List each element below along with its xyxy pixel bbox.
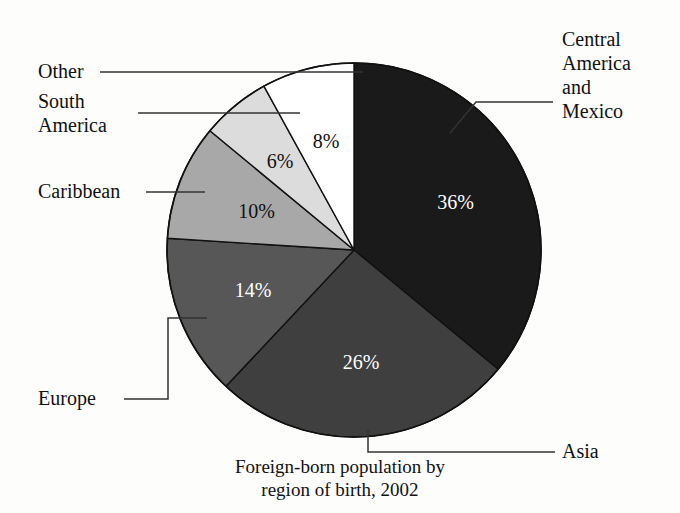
label-caribbean: Caribbean — [38, 180, 120, 204]
chart-caption: Foreign-born population by region of bir… — [0, 455, 680, 501]
leader-line-asia — [368, 430, 555, 452]
pie-chart-figure: 36%26%14%10%6%8% Other South America Car… — [0, 0, 680, 513]
caption-line-2: region of birth, 2002 — [0, 478, 680, 501]
label-central-america-line1: Central — [562, 28, 621, 52]
label-south-america-line1: South — [38, 90, 85, 114]
label-europe: Europe — [38, 387, 96, 411]
caption-line-1: Foreign-born population by — [0, 455, 680, 478]
pie-slices-group — [167, 63, 541, 437]
label-other: Other — [38, 60, 84, 84]
label-central-america-line3: and — [562, 76, 591, 100]
label-central-america-line4: Mexico — [562, 100, 623, 124]
label-south-america-line2: America — [38, 114, 107, 138]
label-central-america-line2: America — [562, 52, 631, 76]
